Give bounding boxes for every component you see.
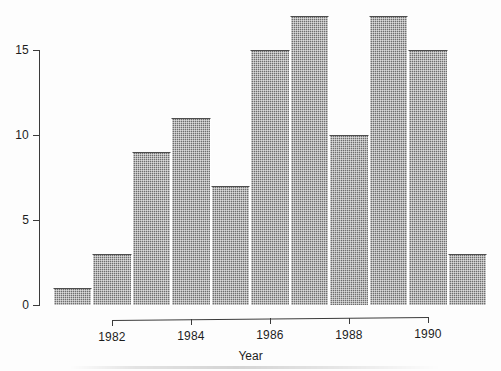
x-axis-tick bbox=[191, 319, 192, 325]
histogram-bar bbox=[329, 135, 369, 305]
histogram-bar bbox=[369, 16, 409, 305]
x-axis-tick-label: 1986 bbox=[240, 329, 300, 342]
histogram-bar bbox=[290, 16, 330, 305]
y-axis-tick-label: 15 bbox=[0, 44, 29, 56]
x-axis-tick-label: 1984 bbox=[161, 330, 221, 343]
y-axis-tick-label: 10 bbox=[0, 129, 29, 141]
y-axis-tick bbox=[33, 220, 39, 221]
histogram-bar bbox=[53, 288, 93, 305]
histogram-bar bbox=[92, 254, 132, 305]
y-axis-tick bbox=[33, 305, 39, 306]
histogram-bar bbox=[132, 152, 172, 305]
x-axis-tick bbox=[112, 320, 113, 326]
histogram-bar bbox=[171, 118, 211, 305]
histogram-bar bbox=[250, 50, 290, 305]
histogram-figure: 0 5 10 15 1982 1984 1986 1988 1990 Year bbox=[0, 0, 501, 371]
x-axis-tick bbox=[349, 318, 350, 324]
y-axis-tick bbox=[33, 50, 39, 51]
x-axis-tick bbox=[428, 317, 429, 323]
y-axis-tick-label: 0 bbox=[0, 299, 29, 311]
plot-area: 0 5 10 15 1982 1984 1986 1988 1990 bbox=[0, 0, 501, 330]
x-axis-tick-label: 1990 bbox=[398, 328, 458, 341]
histogram-bar bbox=[211, 186, 251, 305]
x-axis-title: Year bbox=[0, 350, 501, 363]
x-axis-tick-label: 1982 bbox=[82, 331, 142, 344]
histogram-bar bbox=[408, 50, 448, 305]
histogram-bar bbox=[448, 254, 488, 305]
y-axis-tick-label: 5 bbox=[0, 214, 29, 226]
y-axis-line bbox=[39, 50, 40, 306]
scan-artifact bbox=[70, 366, 440, 369]
x-axis-tick-label: 1988 bbox=[319, 329, 379, 342]
y-axis-tick bbox=[33, 135, 39, 136]
x-axis-tick bbox=[270, 318, 271, 324]
